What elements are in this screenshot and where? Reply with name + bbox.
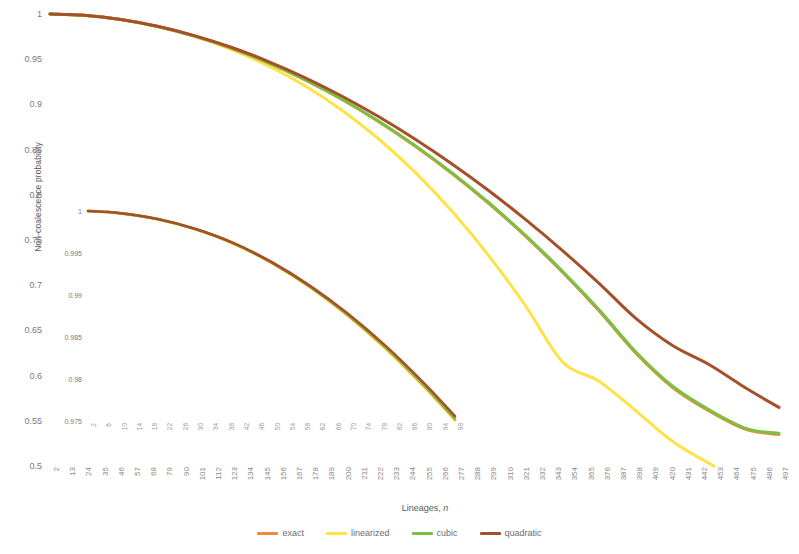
chart-legend: exactlinearizedcubicquadratic: [0, 528, 799, 538]
x-axis-tick-label: 475: [750, 467, 758, 501]
y-axis-tick-label: 1: [0, 10, 42, 19]
x-axis-tick-label: 288: [474, 467, 482, 501]
x-axis-tick-label: 310: [507, 467, 515, 501]
inset-x-axis-tick-label: 22: [167, 423, 174, 449]
inset-series-quadratic: [88, 211, 455, 416]
x-axis-tick-label: 332: [539, 467, 547, 501]
inset-x-axis-tick-label: 86: [412, 423, 419, 449]
x-axis-tick-label: 233: [393, 467, 401, 501]
inset-series-exact: [88, 211, 455, 419]
x-axis-tick-label: 442: [701, 467, 709, 501]
x-axis-tick-label: 134: [247, 467, 255, 501]
x-axis-tick-label: 321: [523, 467, 531, 501]
inset-x-axis-tick-label: 98: [458, 423, 465, 449]
x-axis-tick-label: 486: [766, 467, 774, 501]
legend-label: exact: [282, 528, 304, 538]
inset-x-axis-tick-label: 10: [122, 423, 129, 449]
inset-x-axis-tick-label: 58: [305, 423, 312, 449]
inset-x-axis-tick-label: 90: [427, 423, 434, 449]
x-axis-tick-label: 255: [426, 467, 434, 501]
x-axis-tick-label: 189: [328, 467, 336, 501]
inset-x-axis-tick-label: 26: [183, 423, 190, 449]
inset-x-axis-tick-label: 30: [198, 423, 205, 449]
x-axis-tick-label: 398: [636, 467, 644, 501]
x-axis-tick-label: 266: [442, 467, 450, 501]
x-axis-tick-label: 46: [118, 467, 126, 501]
x-axis-tick-label: 497: [782, 467, 790, 501]
legend-label: cubic: [437, 528, 458, 538]
inset-x-axis-tick-label: 66: [336, 423, 343, 449]
inset-x-axis-tick-label: 82: [397, 423, 404, 449]
x-axis-tick-label: 409: [652, 467, 660, 501]
chart-figure: Non-coalescence probability 10.950.90.85…: [0, 0, 799, 554]
x-axis-tick-label: 354: [571, 467, 579, 501]
x-axis-tick-label: 343: [555, 467, 563, 501]
x-axis-tick-label: 464: [733, 467, 741, 501]
y-axis-tick-label: 0.75: [0, 236, 42, 245]
inset-x-axis-tick-label: 38: [229, 423, 236, 449]
legend-swatch-exact: [257, 532, 278, 535]
legend-label: linearized: [351, 528, 390, 538]
x-axis-tick-label: 112: [215, 467, 223, 501]
inset-series-cubic: [88, 211, 455, 419]
x-axis-tick-label: 178: [312, 467, 320, 501]
legend-swatch-linearized: [326, 532, 347, 535]
x-axis-tick-label: 365: [588, 467, 596, 501]
y-axis-tick-label: 0.9: [0, 100, 42, 109]
inset-x-axis-tick-label: 74: [366, 423, 373, 449]
inset-y-axis-tick-label: 0.975: [34, 418, 82, 425]
x-axis-tick-label: 90: [183, 467, 191, 501]
inset-x-axis-tick-label: 54: [290, 423, 297, 449]
inset-x-axis-tick-label: 42: [244, 423, 251, 449]
x-axis-tick-label: 24: [85, 467, 93, 501]
legend-item-quadratic[interactable]: quadratic: [480, 528, 542, 538]
inset-y-axis-tick-label: 0.985: [34, 334, 82, 341]
x-axis-tick-label: 222: [377, 467, 385, 501]
inset-y-axis-tick-label: 1: [34, 208, 82, 215]
x-axis-tick-label: 431: [685, 467, 693, 501]
y-axis-tick-label: 0.7: [0, 281, 42, 290]
main-series-quadratic: [50, 14, 779, 407]
x-axis-tick-label: 376: [604, 467, 612, 501]
inset-x-axis-tick-label: 2: [91, 423, 98, 449]
inset-x-axis-tick-label: 70: [351, 423, 358, 449]
x-axis-tick-label: 101: [199, 467, 207, 501]
x-axis-tick-label: 123: [231, 467, 239, 501]
x-axis-tick-label: 156: [280, 467, 288, 501]
x-axis-tick-label: 2: [53, 467, 61, 501]
inset-x-axis-tick-label: 14: [137, 423, 144, 449]
x-axis-tick-label: 299: [490, 467, 498, 501]
x-axis-tick-label: 68: [150, 467, 158, 501]
x-axis-tick-label: 211: [361, 467, 369, 501]
legend-item-cubic[interactable]: cubic: [412, 528, 458, 538]
main-series-linearized: [50, 14, 714, 466]
main-series-cubic: [50, 14, 779, 433]
inset-x-axis-tick-label: 94: [443, 423, 450, 449]
y-axis-tick-label: 0.85: [0, 146, 42, 155]
legend-item-linearized[interactable]: linearized: [326, 528, 390, 538]
x-axis-tick-label: 387: [620, 467, 628, 501]
x-axis-tick-label: 13: [69, 467, 77, 501]
legend-swatch-cubic: [412, 532, 433, 535]
x-axis-tick-label: 277: [458, 467, 466, 501]
x-axis-tick-label: 244: [409, 467, 417, 501]
y-axis-tick-label: 0.95: [0, 55, 42, 64]
inset-series-group: [88, 211, 455, 421]
inset-x-axis-tick-label: 50: [275, 423, 282, 449]
inset-series-linearized: [88, 211, 455, 421]
inset-x-axis-tick-label: 62: [320, 423, 327, 449]
inset-x-axis-tick-label: 34: [213, 423, 220, 449]
x-axis-tick-label: 167: [296, 467, 304, 501]
y-axis-tick-label: 0.5: [0, 462, 42, 471]
x-axis-tick-label: 420: [669, 467, 677, 501]
main-series-group: [50, 14, 779, 466]
x-axis-tick-label: 200: [345, 467, 353, 501]
x-axis-tick-label: 57: [134, 467, 142, 501]
inset-x-axis-tick-label: 6: [106, 423, 113, 449]
legend-swatch-quadratic: [480, 532, 501, 535]
inset-x-axis-tick-label: 46: [259, 423, 266, 449]
inset-y-axis-tick-label: 0.98: [34, 376, 82, 383]
x-axis-tick-label: 35: [102, 467, 110, 501]
main-series-exact: [50, 14, 779, 435]
legend-item-exact[interactable]: exact: [257, 528, 304, 538]
